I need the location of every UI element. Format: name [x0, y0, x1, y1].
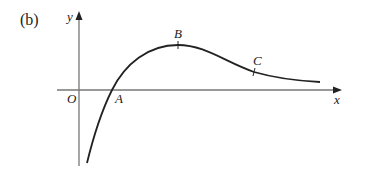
- point-c-label: C: [253, 53, 262, 68]
- x-axis-label: x: [333, 92, 340, 107]
- origin-label: O: [67, 91, 77, 106]
- y-axis-label: y: [65, 9, 73, 24]
- y-axis-arrow-icon: [76, 11, 83, 20]
- part-label: (b): [20, 11, 39, 29]
- point-a-label: A: [114, 91, 123, 106]
- graph-canvas: (b) y x O A B C: [0, 0, 370, 169]
- point-b-label: B: [174, 26, 182, 41]
